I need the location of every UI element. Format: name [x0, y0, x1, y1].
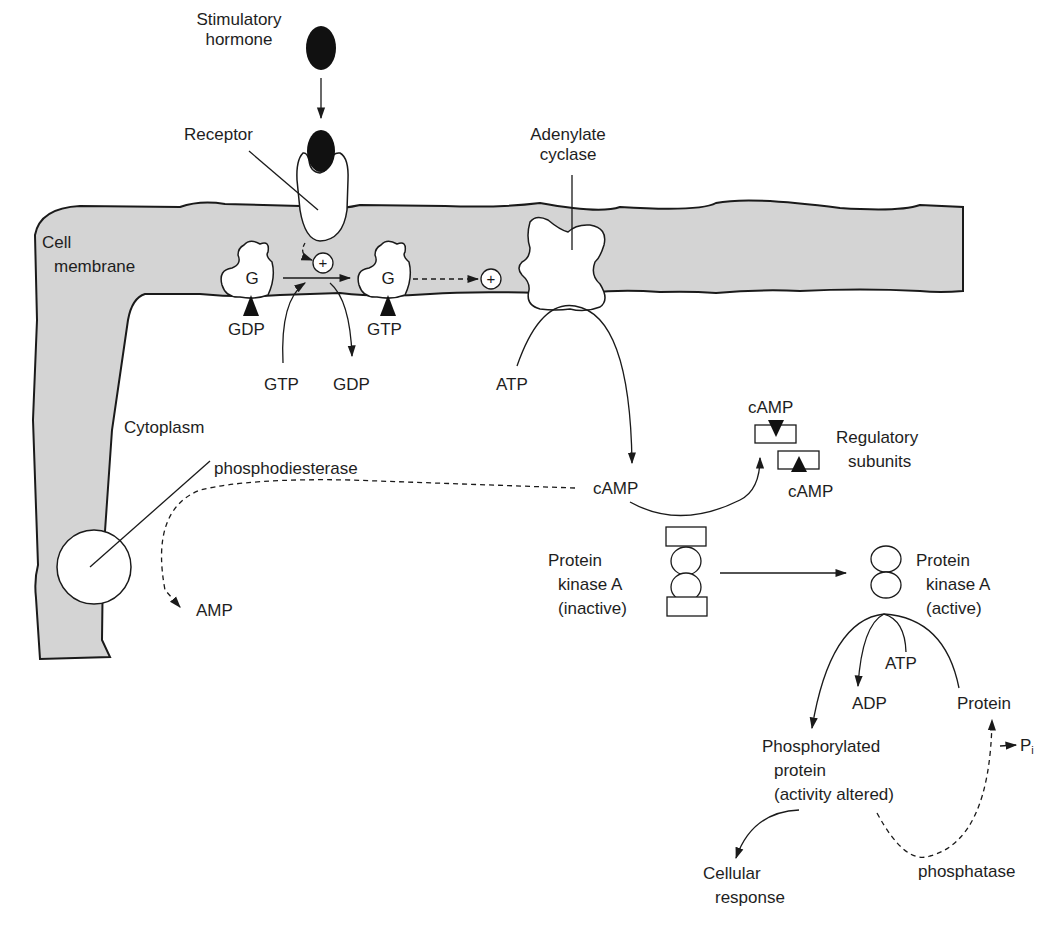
label-pka-active: Protein kinase A (active) [916, 549, 990, 621]
camp-to-regulatory-arc [630, 458, 760, 516]
label-cellular-response: Cellular response [703, 862, 785, 910]
label-protein: Protein [957, 694, 1011, 714]
pka-inactive-reg-bottom [667, 597, 707, 616]
plus-sign-1: + [319, 254, 328, 271]
pka-inactive-reg-top [666, 527, 706, 546]
label-atp-kinase: ATP [885, 654, 917, 674]
hormone-free [306, 26, 336, 70]
to-adp-arrow [858, 614, 884, 686]
label-stimulatory-hormone: Stimulatory hormone [183, 10, 295, 50]
label-phosphodiesterase: phosphodiesterase [214, 459, 358, 479]
g-label-left: G [245, 269, 258, 288]
label-atp-cyclase: ATP [496, 375, 528, 395]
label-camp-reg-bottom: cAMP [788, 482, 833, 502]
pka-active-cat-2 [871, 572, 901, 598]
plus-sign-2: + [487, 270, 496, 287]
label-pi: Pi [1020, 736, 1034, 760]
from-atp-line [884, 614, 906, 652]
label-cell-membrane: Cell membrane [42, 233, 135, 277]
label-regulatory-subunits: Regulatory subunits [836, 428, 918, 472]
atp-to-camp-arc [517, 306, 632, 464]
to-cellular-response-arrow [736, 810, 799, 858]
pka-active-cat-1 [871, 546, 901, 572]
pka-inactive-cat-1 [671, 547, 701, 575]
from-protein-line [884, 614, 959, 688]
label-camp-reg-top: cAMP [748, 398, 793, 418]
g-label-right: G [381, 269, 394, 288]
label-adenylate-cyclase: Adenylate cyclase [525, 125, 611, 165]
label-adp: ADP [852, 694, 887, 714]
label-gtp-in: GTP [264, 375, 299, 395]
label-camp: cAMP [593, 479, 638, 499]
label-cytoplasm: Cytoplasm [124, 418, 204, 438]
label-pka-inactive: Protein kinase A (inactive) [548, 549, 627, 621]
camp-to-amp-dashed [162, 480, 575, 607]
pi-release-arrow [1000, 745, 1016, 746]
label-gdp-bound: GDP [228, 320, 265, 340]
label-gtp-bound: GTP [367, 320, 402, 340]
phosphatase-dashed-loop [877, 720, 992, 857]
label-gdp-out: GDP [333, 375, 370, 395]
label-amp: AMP [196, 601, 233, 621]
label-receptor: Receptor [184, 125, 253, 145]
hormone-bound [307, 130, 335, 172]
adenylate-cyclase-enzyme [519, 217, 605, 310]
label-phosphorylated-protein: Phosphorylated protein (activity altered… [762, 735, 894, 807]
label-phosphatase: phosphatase [918, 862, 1015, 882]
